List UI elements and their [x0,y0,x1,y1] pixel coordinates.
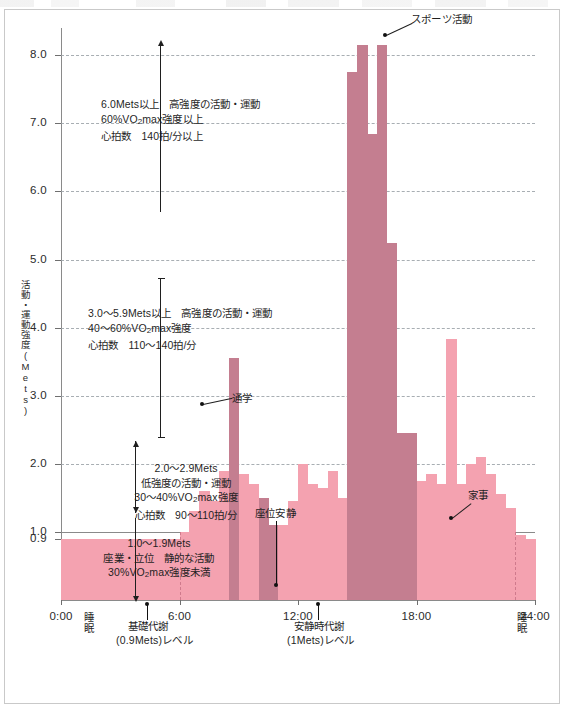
callout-sports-dot [383,33,387,37]
band-low-line3: 30〜40%VO2max強度 [101,490,271,508]
band-moderate-line1: 3.0〜5.9Mets以上 高強度の活動・運動 [88,306,272,321]
band-sedentary-line1: 1.0〜1.9Mets [74,536,244,551]
y-tick-label-2.0: 2.0 [30,457,47,469]
band-low-line1: 2.0〜2.9Mets [101,461,271,476]
y-tick-label-7.0: 7.0 [30,116,47,128]
callout-sitting-rest-leader [276,521,277,584]
callout-housework-dot [449,516,453,520]
y-tick-label-0.9: 0.9 [30,532,47,544]
y-tick-label-6.0: 6.0 [30,184,47,196]
band-low-line2: 低強度の活動・運動 [101,476,271,491]
arrow-head-down-low-icon [133,507,139,513]
range-arrow-high [160,46,161,212]
y-axis-title: 活動・運動強度(Mets) [14,280,30,450]
chart-page: 8.07.06.05.04.03.02.01.00.9 活動・運動強度(Mets… [0,0,565,711]
band-high-line2: 60%VO2max強度以上 [101,112,260,130]
band-sedentary: 1.0〜1.9Mets 座業・立位 静的な活動 30%VO2max強度未満 [74,536,244,583]
band-low-line4: 心拍数 90〜110拍/分 [101,508,271,523]
arrow-head-up-low-icon [133,441,139,447]
band-low-intensity: 2.0〜2.9Mets 低強度の活動・運動 30〜40%VO2max強度 心拍数… [101,461,271,522]
basal-metabolism-dot [145,602,149,606]
band-high-line1: 6.0Mets以上 高強度の活動・運動 [101,97,260,112]
arrow-head-up-icon [158,40,164,46]
x-tick-label-0:00: 0:00 [49,610,72,622]
range-arrow-moderate [160,278,161,438]
band-high-intensity: 6.0Mets以上 高強度の活動・運動 60%VO2max強度以上 心拍数 14… [101,97,260,144]
baseline-resting-metabolism-label: 安静時代謝 (1Mets)レベル [287,619,351,647]
arrow-head-down-sedentary-icon [133,596,139,602]
range-arrow-sedentary [135,518,136,596]
callout-commute-label: 通学 [232,390,252,405]
band-moderate-line3: 心拍数 110〜140拍/分 [88,338,272,353]
range-cap-bottom [158,437,165,438]
band-moderate-line2: 40〜60%VO2max強度 [88,321,272,339]
y-tick-label-3.0: 3.0 [30,389,47,401]
range-arrow-low [135,441,136,513]
y-tick-label-5.0: 5.0 [30,253,47,265]
band-high-line3: 心拍数 140拍/分以上 [101,129,260,144]
scan-artifact-strip [0,0,565,7]
x-tick-label-18:00: 18:00 [402,610,432,622]
range-cap-top [158,278,165,279]
callout-housework-label: 家事 [468,487,488,502]
callout-commute-dot [200,402,204,406]
baseline-sleep-left-label: 睡眠 [82,612,94,634]
callout-sitting-rest-label: 座位安静 [255,506,296,520]
sleep-separator-night [515,532,516,600]
band-moderate-intensity: 3.0〜5.9Mets以上 高強度の活動・運動 40〜60%VO2max強度 心… [88,306,272,353]
band-sedentary-line2: 座業・立位 静的な活動 [74,551,244,566]
callout-sitting-rest-dot [274,583,278,587]
y-tick-label-4.0: 4.0 [30,321,47,333]
basal-metabolism-leader [147,604,148,620]
band-sedentary-line3: 30%VO2max強度未満 [74,565,244,583]
bar [525,539,535,600]
resting-metabolism-dot [316,602,320,606]
baseline-sleep-right-label: 睡眠 [515,612,527,634]
resting-metabolism-leader [318,604,319,620]
callout-sports-label: スポーツ活動 [411,11,472,26]
baseline-basal-metabolism-label: 基礎代謝 (0.9Mets)レベル [116,619,180,647]
y-tick-label-8.0: 8.0 [30,48,47,60]
